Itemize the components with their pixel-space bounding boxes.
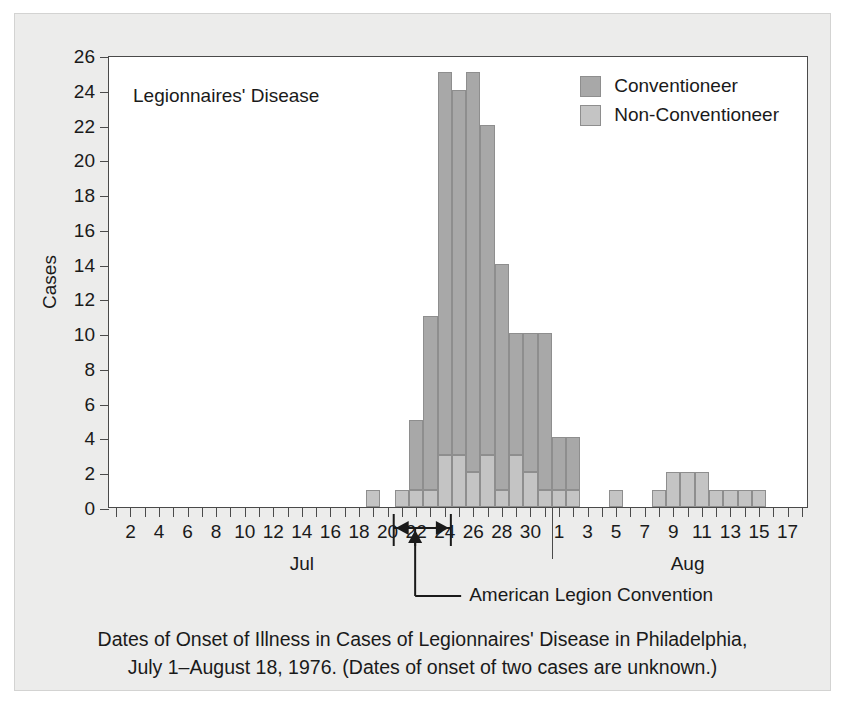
y-axis-tick-label: 0 (55, 498, 95, 520)
bar-stack (366, 490, 380, 507)
bar-stack (523, 333, 537, 507)
y-axis-tick (100, 300, 109, 301)
bar-stack (495, 264, 509, 507)
bar-segment-non-conventioneer (609, 490, 623, 507)
bar-stack (695, 472, 709, 507)
bar-segment-non-conventioneer (552, 490, 566, 507)
bar-segment-conventioneer (552, 437, 566, 489)
bar-segment-non-conventioneer (452, 455, 466, 507)
bar-segment-non-conventioneer (523, 472, 537, 507)
bar-segment-non-conventioneer (438, 455, 452, 507)
bar-segment-conventioneer (538, 333, 552, 489)
bar-segment-non-conventioneer (538, 490, 552, 507)
bar-segment-non-conventioneer (652, 490, 666, 507)
bar-stack (566, 437, 580, 507)
bar-segment-non-conventioneer (566, 490, 580, 507)
bar-stack (680, 472, 694, 507)
bar-segment-non-conventioneer (752, 490, 766, 507)
bar-segment-conventioneer (423, 316, 437, 490)
convention-annotation-label: American Legion Convention (469, 584, 713, 606)
bar-stack (452, 90, 466, 507)
bars-layer (109, 57, 807, 507)
bar-stack (438, 72, 452, 507)
bar-segment-conventioneer (409, 420, 423, 490)
bar-stack (538, 333, 552, 507)
bar-segment-non-conventioneer (666, 472, 680, 507)
figure-panel: Cases Legionnaires' Disease Conventionee… (14, 13, 831, 691)
y-axis-tick-label: 4 (55, 428, 95, 450)
y-axis-tick-label: 24 (55, 81, 95, 103)
y-axis-tick-label: 8 (55, 359, 95, 381)
bar-segment-conventioneer (466, 72, 480, 472)
y-axis-tick (100, 92, 109, 93)
bar-segment-non-conventioneer (695, 472, 709, 507)
bar-stack (723, 490, 737, 507)
y-axis-tick (100, 196, 109, 197)
caption-line-2: July 1–August 18, 1976. (Dates of onset … (45, 654, 800, 682)
y-axis-tick (100, 231, 109, 232)
bar-segment-non-conventioneer (423, 490, 437, 507)
bar-segment-non-conventioneer (495, 490, 509, 507)
y-axis-tick (100, 266, 109, 267)
bar-segment-conventioneer (566, 437, 580, 489)
bar-segment-non-conventioneer (680, 472, 694, 507)
y-axis-tick (100, 161, 109, 162)
bar-stack (409, 420, 423, 507)
y-axis-tick-label: 6 (55, 394, 95, 416)
bar-segment-non-conventioneer (738, 490, 752, 507)
y-axis-tick-label: 12 (55, 289, 95, 311)
bar-stack (423, 316, 437, 507)
bar-segment-non-conventioneer (709, 490, 723, 507)
bar-segment-non-conventioneer (723, 490, 737, 507)
bar-segment-non-conventioneer (466, 472, 480, 507)
convention-annotation: American Legion Convention (108, 508, 808, 628)
bar-stack (709, 490, 723, 507)
bar-stack (552, 437, 566, 507)
convention-bracket-icon (108, 508, 808, 628)
y-axis-tick (100, 405, 109, 406)
bar-segment-conventioneer (438, 72, 452, 454)
bar-segment-non-conventioneer (366, 490, 380, 507)
y-axis-tick-label: 26 (55, 46, 95, 68)
y-axis-tick-label: 16 (55, 220, 95, 242)
y-axis-tick-label: 14 (55, 255, 95, 277)
y-axis-tick (100, 370, 109, 371)
bar-segment-conventioneer (523, 333, 537, 472)
y-axis-tick-label: 2 (55, 463, 95, 485)
y-axis-tick (100, 439, 109, 440)
bar-stack (395, 490, 409, 507)
y-axis-tick (100, 335, 109, 336)
y-axis-tick-label: 10 (55, 324, 95, 346)
bar-stack (509, 333, 523, 507)
bar-stack (652, 490, 666, 507)
plot-area: Legionnaires' Disease Conventioneer Non-… (108, 56, 808, 508)
y-axis-tick (100, 57, 109, 58)
bar-segment-conventioneer (495, 264, 509, 490)
y-axis-tick-label: 18 (55, 185, 95, 207)
bar-stack (752, 490, 766, 507)
bar-segment-conventioneer (509, 333, 523, 455)
bar-segment-non-conventioneer (509, 455, 523, 507)
y-axis-tick-label: 20 (55, 150, 95, 172)
y-axis-tick-label: 22 (55, 116, 95, 138)
bar-segment-conventioneer (480, 125, 494, 455)
bar-stack (666, 472, 680, 507)
bar-segment-non-conventioneer (480, 455, 494, 507)
bar-stack (466, 72, 480, 507)
bar-stack (480, 125, 494, 507)
y-axis-tick (100, 127, 109, 128)
y-axis-tick (100, 474, 109, 475)
bar-stack (609, 490, 623, 507)
bar-segment-non-conventioneer (395, 490, 409, 507)
caption-line-1: Dates of Onset of Illness in Cases of Le… (45, 626, 800, 654)
figure-caption: Dates of Onset of Illness in Cases of Le… (45, 626, 800, 681)
bar-stack (738, 490, 752, 507)
bar-segment-conventioneer (452, 90, 466, 455)
bar-segment-non-conventioneer (409, 490, 423, 507)
